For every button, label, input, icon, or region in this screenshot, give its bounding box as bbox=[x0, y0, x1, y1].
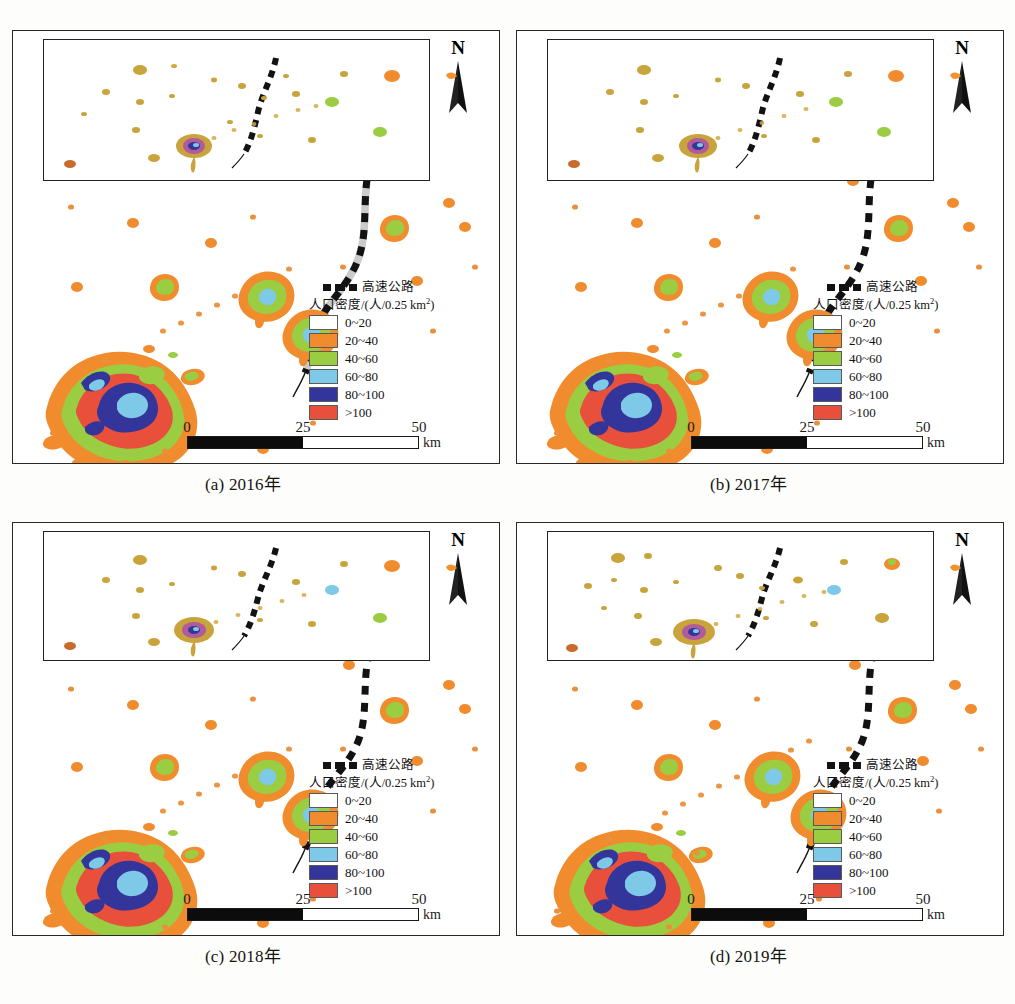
legend-title: 人口密度/(人/0.25 km2) bbox=[309, 775, 435, 790]
map-panel-b: N 高速公路 人口密度/(人/0.25 km2) 0~20 20~40 40~6… bbox=[516, 30, 1004, 464]
legend-class-3: 60~80 bbox=[813, 847, 939, 862]
legend-class-0: 0~20 bbox=[813, 793, 939, 808]
caption-a: (a) 2016年 bbox=[205, 470, 281, 495]
north-label: N bbox=[451, 37, 465, 59]
legend-highway-row: 高速公路 bbox=[309, 759, 435, 772]
legend-c: 高速公路 人口密度/(人/0.25 km2) 0~20 20~40 40~60 … bbox=[309, 759, 435, 901]
legend-swatch bbox=[309, 405, 338, 420]
legend-class-2: 40~60 bbox=[813, 829, 939, 844]
legend-highway-label: 高速公路 bbox=[866, 759, 918, 772]
inset-map-d bbox=[547, 531, 934, 661]
north-label: N bbox=[955, 529, 969, 551]
legend-swatch bbox=[309, 847, 338, 862]
north-arrow-icon bbox=[445, 59, 471, 117]
legend-swatch bbox=[309, 865, 338, 880]
legend-class-4: 80~100 bbox=[309, 387, 435, 402]
legend-swatch bbox=[813, 351, 842, 366]
legend-swatch bbox=[813, 811, 842, 826]
legend-title: 人口密度/(人/0.25 km2) bbox=[309, 297, 435, 312]
legend-class-2: 40~60 bbox=[309, 829, 435, 844]
legend-swatch bbox=[309, 387, 338, 402]
legend-class-4: 80~100 bbox=[813, 865, 939, 880]
legend-swatch bbox=[813, 829, 842, 844]
caption-d: (d) 2019年 bbox=[710, 942, 787, 967]
scale-unit-label: km bbox=[423, 435, 441, 451]
legend-swatch bbox=[309, 369, 338, 384]
legend-class-3: 60~80 bbox=[813, 369, 939, 384]
figure-root: N 高速公路 人口密度/(人/0.25 km2) 0~20 20~40 40~6… bbox=[0, 0, 1015, 1004]
legend-class-1: 20~40 bbox=[813, 811, 939, 826]
legend-swatch bbox=[309, 351, 338, 366]
inset-map-b bbox=[547, 39, 934, 181]
legend-swatch bbox=[813, 865, 842, 880]
legend-highway-row: 高速公路 bbox=[813, 281, 939, 294]
legend-swatch bbox=[309, 333, 338, 348]
scale-ticks: 0 25 50 bbox=[691, 891, 923, 908]
legend-title: 人口密度/(人/0.25 km2) bbox=[813, 775, 939, 790]
scale-bar-graphic bbox=[187, 908, 419, 921]
north-arrow-b: N bbox=[939, 37, 985, 121]
scale-unit-label: km bbox=[927, 435, 945, 451]
north-arrow-icon bbox=[949, 59, 975, 117]
legend-class-3: 60~80 bbox=[309, 369, 435, 384]
scale-unit-label: km bbox=[423, 907, 441, 923]
scale-bar-d: 0 25 50 km bbox=[691, 891, 923, 921]
legend-class-2: 40~60 bbox=[813, 351, 939, 366]
highway-symbol-icon bbox=[827, 762, 861, 769]
legend-class-3: 60~80 bbox=[309, 847, 435, 862]
map-panel-a: N 高速公路 人口密度/(人/0.25 km2) 0~20 20~40 40~6… bbox=[12, 30, 500, 464]
caption-b: (b) 2017年 bbox=[710, 470, 787, 495]
legend-class-4: 80~100 bbox=[309, 865, 435, 880]
north-label: N bbox=[955, 37, 969, 59]
legend-d: 高速公路 人口密度/(人/0.25 km2) 0~20 20~40 40~60 … bbox=[813, 759, 939, 901]
legend-swatch bbox=[813, 847, 842, 862]
scale-ticks: 0 25 50 bbox=[691, 419, 923, 436]
legend-class-1: 20~40 bbox=[309, 811, 435, 826]
legend-highway-label: 高速公路 bbox=[866, 281, 918, 294]
scale-ticks: 0 25 50 bbox=[187, 419, 419, 436]
legend-class-1: 20~40 bbox=[309, 333, 435, 348]
legend-class-2: 40~60 bbox=[309, 351, 435, 366]
scale-bar-a: 0 25 50 km bbox=[187, 419, 419, 449]
legend-swatch bbox=[813, 315, 842, 330]
legend-highway-row: 高速公路 bbox=[813, 759, 939, 772]
legend-class-5: >100 bbox=[813, 405, 939, 420]
scale-unit-label: km bbox=[927, 907, 945, 923]
legend-highway-label: 高速公路 bbox=[362, 759, 414, 772]
legend-title: 人口密度/(人/0.25 km2) bbox=[813, 297, 939, 312]
legend-class-0: 0~20 bbox=[309, 315, 435, 330]
scale-bar-graphic bbox=[187, 436, 419, 449]
legend-highway-row: 高速公路 bbox=[309, 281, 435, 294]
legend-swatch bbox=[309, 811, 338, 826]
north-arrow-d: N bbox=[939, 529, 985, 613]
highway-symbol-icon bbox=[323, 284, 357, 291]
legend-class-4: 80~100 bbox=[813, 387, 939, 402]
legend-class-0: 0~20 bbox=[813, 315, 939, 330]
legend-a: 高速公路 人口密度/(人/0.25 km2) 0~20 20~40 40~60 … bbox=[309, 281, 435, 423]
north-arrow-a: N bbox=[435, 37, 481, 121]
map-panel-d: N 高速公路 人口密度/(人/0.25 km2) 0~20 20~40 40~6… bbox=[516, 522, 1004, 936]
legend-swatch bbox=[813, 333, 842, 348]
inset-map-a bbox=[43, 39, 430, 181]
scale-bar-graphic bbox=[691, 436, 923, 449]
legend-swatch bbox=[813, 387, 842, 402]
legend-b: 高速公路 人口密度/(人/0.25 km2) 0~20 20~40 40~60 … bbox=[813, 281, 939, 423]
scale-bar-c: 0 25 50 km bbox=[187, 891, 419, 921]
highway-symbol-icon bbox=[323, 762, 357, 769]
scale-bar-graphic bbox=[691, 908, 923, 921]
highway-symbol-icon bbox=[827, 284, 861, 291]
legend-swatch bbox=[309, 793, 338, 808]
scale-ticks: 0 25 50 bbox=[187, 891, 419, 908]
north-arrow-icon bbox=[949, 551, 975, 609]
legend-swatch bbox=[309, 829, 338, 844]
legend-class-5: >100 bbox=[309, 405, 435, 420]
legend-class-0: 0~20 bbox=[309, 793, 435, 808]
legend-swatch bbox=[813, 793, 842, 808]
legend-swatch bbox=[813, 405, 842, 420]
scale-bar-b: 0 25 50 km bbox=[691, 419, 923, 449]
legend-highway-label: 高速公路 bbox=[362, 281, 414, 294]
caption-c: (c) 2018年 bbox=[205, 942, 281, 967]
map-panel-c: N 高速公路 人口密度/(人/0.25 km2) 0~20 20~40 40~6… bbox=[12, 522, 500, 936]
inset-map-c bbox=[43, 531, 430, 661]
north-arrow-icon bbox=[445, 551, 471, 609]
